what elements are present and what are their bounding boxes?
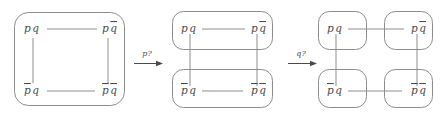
stage-2-node-pqb: pq	[251, 22, 266, 34]
node-sym-q: q	[335, 84, 342, 96]
node-sym-p-bar: p	[24, 84, 31, 96]
stage-2-node-pq: pq	[181, 22, 196, 34]
arrow-label-p: p?	[142, 49, 152, 58]
node-sym-p-bar: p	[181, 84, 188, 96]
stage-2-node-pbqb: pq	[251, 84, 266, 96]
node-sym-q: q	[189, 84, 196, 96]
arrow-2-head	[310, 61, 317, 66]
stage-3-block-pq	[319, 12, 367, 50]
arrow-label-q: q?	[296, 49, 306, 58]
arrow-q-question: q?	[288, 49, 317, 66]
node-sym-q: q	[189, 22, 196, 34]
node-sym-p: p	[24, 22, 31, 34]
stage-1-group: pq pq pq pq	[15, 13, 125, 106]
node-sym-q-bar: q	[110, 84, 117, 96]
stage-2-node-pbq: pq	[181, 84, 196, 96]
stage-3-block-pbq	[319, 70, 367, 108]
node-sym-q: q	[32, 84, 39, 96]
stage-3-node-pbq: pq	[327, 84, 342, 96]
arrow-1-head	[156, 61, 163, 66]
node-sym-p-bar: p	[327, 84, 334, 96]
stage-3-node-pbqb: pq	[411, 84, 426, 96]
node-sym-p-bar: p	[102, 84, 109, 96]
node-sym-p: p	[411, 22, 418, 34]
stage-3-node-pq: pq	[327, 22, 342, 34]
node-sym-p: p	[102, 22, 109, 34]
node-sym-p: p	[251, 22, 258, 34]
node-sym-q-bar: q	[259, 22, 266, 34]
stage-1-node-pq: pq	[24, 22, 39, 34]
arrow-p-question: p?	[134, 49, 163, 66]
stage-2-group: pq pq pq pq	[173, 12, 273, 108]
node-sym-p-bar: p	[251, 84, 258, 96]
node-sym-q-bar: q	[419, 22, 426, 34]
stage-1-node-pbq: pq	[24, 84, 39, 96]
node-sym-q: q	[335, 22, 342, 34]
node-sym-p-bar: p	[411, 84, 418, 96]
stage-1-node-pqb: pq	[102, 22, 117, 34]
partition-refinement-figure: pq pq pq pq p?	[0, 0, 445, 119]
node-sym-q-bar: q	[259, 84, 266, 96]
node-sym-q-bar: q	[419, 84, 426, 96]
node-sym-p: p	[327, 22, 334, 34]
node-sym-q: q	[32, 22, 39, 34]
node-sym-q-bar: q	[110, 22, 117, 34]
stage-3-group: pq pq pq pq	[319, 12, 433, 108]
stage-1-node-pbqb: pq	[102, 84, 117, 96]
stage-3-node-pqb: pq	[411, 22, 426, 34]
node-sym-p: p	[181, 22, 188, 34]
